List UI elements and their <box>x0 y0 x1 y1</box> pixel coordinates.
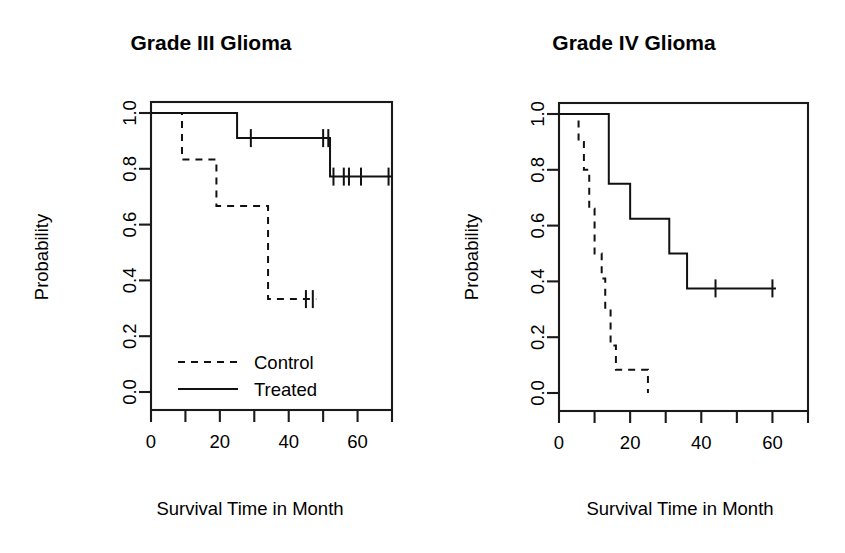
plot-grade-iv: Grade IV Glioma Probability Survival Tim… <box>422 0 845 553</box>
y-tick-label-left-2: 0.4 <box>119 268 140 294</box>
x-axis-title-right: Survival Time in Month <box>586 498 773 519</box>
km-curve-left-treated <box>151 113 392 177</box>
km-curve-left-control <box>151 113 316 299</box>
x-tick-label-right-6: 60 <box>762 432 783 453</box>
km-curve-right-treated <box>559 114 776 288</box>
tick-labels-right: 02040600.00.20.40.60.81.0 <box>527 101 783 453</box>
tick-marks-left <box>139 113 392 422</box>
x-tick-label-left-0: 0 <box>146 431 156 452</box>
y-tick-label-right-4: 0.8 <box>527 157 548 183</box>
survival-curves-right <box>559 114 776 393</box>
y-tick-label-left-0: 0.0 <box>119 379 140 405</box>
tick-marks-right <box>547 114 808 423</box>
km-curve-right-control <box>559 114 648 393</box>
y-tick-label-right-3: 0.6 <box>527 213 548 239</box>
x-tick-label-right-0: 0 <box>554 432 564 453</box>
y-tick-label-left-1: 0.2 <box>119 323 140 349</box>
plot-grade-iii: Grade III Glioma Probability Survival Ti… <box>0 0 423 553</box>
legend-left: ControlTreated <box>178 352 317 400</box>
x-tick-label-left-6: 60 <box>347 431 368 452</box>
survival-curves-left <box>151 113 392 308</box>
x-tick-label-right-2: 20 <box>620 432 641 453</box>
y-tick-label-right-5: 1.0 <box>527 101 548 127</box>
x-tick-label-left-4: 40 <box>278 431 299 452</box>
legend-label-treated: Treated <box>254 379 317 400</box>
legend-label-control: Control <box>254 352 314 373</box>
y-axis-title-right: Probability <box>461 213 482 300</box>
panel-grade-iii: Grade III Glioma Probability Survival Ti… <box>0 0 423 553</box>
y-axis-title-left: Probability <box>31 213 52 300</box>
survival-curves-figure: Grade III Glioma Probability Survival Ti… <box>0 0 845 553</box>
panel-grade-iv: Grade IV Glioma Probability Survival Tim… <box>422 0 845 553</box>
axes-right <box>559 103 808 411</box>
y-tick-label-right-1: 0.2 <box>527 324 548 350</box>
x-tick-label-left-2: 20 <box>210 431 231 452</box>
plot-box-right <box>559 103 808 411</box>
x-axis-title-left: Survival Time in Month <box>156 498 343 519</box>
panel-title-left: Grade III Glioma <box>130 31 291 54</box>
y-tick-label-left-3: 0.6 <box>119 212 140 238</box>
x-tick-label-right-4: 40 <box>691 432 712 453</box>
y-tick-label-left-4: 0.8 <box>119 156 140 182</box>
y-tick-label-right-2: 0.4 <box>527 269 548 295</box>
panel-title-right: Grade IV Glioma <box>552 31 716 54</box>
y-tick-label-left-5: 1.0 <box>119 100 140 126</box>
y-tick-label-right-0: 0.0 <box>527 380 548 406</box>
